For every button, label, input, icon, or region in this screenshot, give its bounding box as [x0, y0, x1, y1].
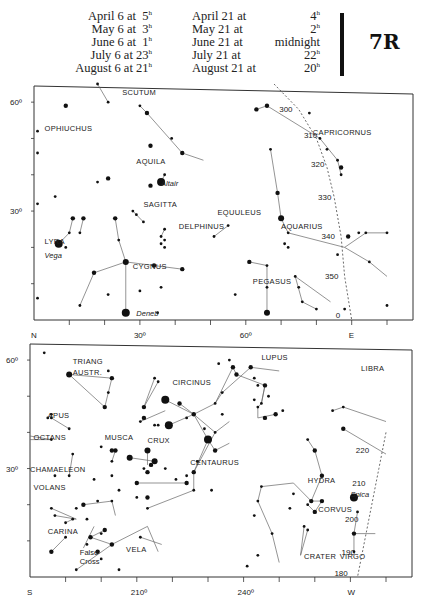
star	[292, 492, 295, 495]
star	[306, 503, 309, 506]
x-tick-label: 210º	[131, 588, 147, 597]
schedule-right: April 21 at4h May 21 at2h June 21 atmidn…	[192, 10, 320, 75]
star	[234, 372, 238, 376]
schedule-unit: h	[149, 61, 153, 69]
star	[357, 231, 360, 234]
star	[81, 502, 85, 506]
star	[135, 481, 139, 485]
star	[265, 104, 269, 108]
star	[36, 202, 39, 205]
constellation-label: LYRA	[45, 237, 65, 246]
star	[256, 554, 259, 557]
star	[86, 518, 89, 521]
star	[153, 424, 156, 427]
star	[110, 542, 114, 546]
constellation-line	[345, 247, 387, 276]
star	[96, 500, 99, 503]
constellation-label: VELA	[126, 545, 146, 554]
star	[331, 409, 334, 412]
star	[64, 104, 68, 108]
constellation-label: CAPRICORNUS	[313, 128, 372, 137]
star	[148, 144, 152, 148]
star	[86, 543, 89, 546]
star	[157, 380, 160, 383]
star	[163, 239, 166, 242]
star	[192, 412, 196, 416]
constellation-label: PEGASUS	[253, 277, 291, 286]
constellation-label: CRUX	[147, 436, 169, 445]
constellation-label: CHAMAELEON	[30, 465, 86, 474]
star	[122, 309, 130, 317]
star	[36, 130, 39, 133]
star	[64, 521, 67, 524]
star	[260, 485, 263, 488]
schedule-hour: 23	[136, 48, 149, 62]
schedule-unit: h	[317, 22, 321, 30]
star	[263, 416, 267, 420]
named-star-label: Cross	[80, 557, 100, 566]
constellation-line	[80, 273, 94, 306]
star	[336, 159, 339, 162]
star	[113, 448, 117, 452]
star	[342, 406, 345, 409]
schedule-date: April 6 at	[88, 9, 136, 23]
constellation-line	[194, 367, 233, 414]
star	[346, 234, 350, 238]
schedule-left: April 6 at 5h May 6 at 3h June 6 at 1h J…	[54, 10, 152, 75]
star	[260, 402, 263, 405]
star	[93, 478, 96, 481]
star	[269, 148, 272, 151]
star	[103, 528, 107, 532]
constellation-line	[91, 537, 112, 544]
star	[288, 507, 291, 510]
star	[64, 246, 67, 249]
star	[163, 228, 166, 231]
star	[340, 173, 343, 176]
star	[78, 231, 81, 234]
star	[339, 165, 343, 169]
star	[49, 549, 53, 553]
ecliptic-label: 320	[311, 160, 325, 169]
schedule-hour: 22	[304, 48, 317, 62]
star	[131, 210, 134, 213]
star	[231, 365, 235, 369]
north-star-map: 30º60º30º60ºNE3003103203303403500SCUTUMO…	[0, 80, 426, 340]
star	[152, 458, 158, 464]
star	[100, 445, 103, 448]
star	[214, 402, 217, 405]
star	[163, 173, 166, 176]
constellation-label: APUS	[48, 411, 70, 420]
star	[306, 438, 309, 441]
ecliptic-label: 300	[279, 105, 293, 114]
star	[247, 260, 251, 264]
star	[142, 221, 145, 224]
star	[185, 417, 188, 420]
map-frame	[34, 86, 413, 320]
constellation-line	[140, 537, 161, 544]
star	[213, 235, 216, 238]
star	[203, 427, 206, 430]
star	[100, 558, 103, 561]
star	[127, 455, 133, 461]
star	[234, 293, 237, 296]
star	[278, 215, 284, 221]
constellation-label: TRIANG	[73, 357, 103, 366]
constellation-line	[315, 450, 322, 475]
constellation-line	[236, 375, 264, 418]
star	[313, 448, 317, 452]
constellation-label: AQUILA	[136, 157, 165, 166]
constellation-label: VOLANS	[34, 483, 66, 492]
star	[139, 290, 142, 293]
constellation-line	[147, 472, 193, 508]
star	[313, 510, 317, 514]
constellation-line	[194, 414, 208, 439]
ecliptic-label: 340	[322, 232, 336, 241]
star	[273, 412, 277, 416]
constellation-line	[258, 487, 279, 563]
star	[336, 253, 339, 256]
star	[319, 137, 322, 140]
constellation-line	[147, 526, 158, 551]
star	[110, 376, 114, 380]
constellation-label: AQUARIUS	[281, 222, 323, 231]
star	[309, 499, 313, 503]
